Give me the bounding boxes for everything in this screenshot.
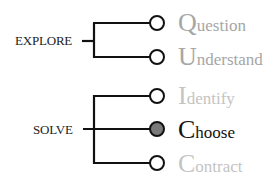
group-label-explore: EXPLORE <box>15 33 72 49</box>
step-contract: Contract <box>178 151 243 177</box>
step-choose: Choose <box>178 117 235 143</box>
step-rest: ontract <box>195 157 242 176</box>
explore-bracket <box>82 23 150 58</box>
group-label-solve: SOLVE <box>33 122 73 138</box>
node-understand <box>150 50 164 64</box>
step-understand: Understand <box>178 44 263 70</box>
step-initial: U <box>178 42 197 71</box>
step-initial: C <box>178 149 195 178</box>
step-rest: uestion <box>197 16 246 35</box>
node-contract <box>150 156 164 170</box>
step-rest: hoose <box>195 123 235 142</box>
step-question: Question <box>178 10 246 36</box>
step-initial: C <box>178 115 195 144</box>
node-question <box>150 16 164 30</box>
step-rest: nderstand <box>197 50 263 69</box>
solve-bracket <box>83 95 150 164</box>
step-identify: Identify <box>178 83 235 109</box>
step-rest: dentify <box>187 89 235 108</box>
step-initial: Q <box>178 8 197 37</box>
node-identify <box>150 89 164 103</box>
step-initial: I <box>178 81 187 110</box>
node-choose <box>150 122 164 136</box>
